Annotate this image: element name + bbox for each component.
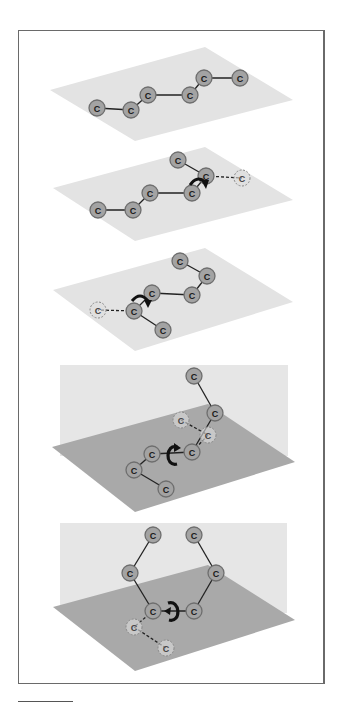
carbon-atom: C: [186, 603, 202, 619]
svg-text:C: C: [128, 106, 135, 116]
carbon-atom: C: [123, 102, 139, 118]
svg-text:C: C: [94, 104, 101, 114]
panel-5: CCCCCCCC: [53, 523, 295, 671]
svg-text:C: C: [204, 272, 211, 282]
ghost-carbon-atom: C: [126, 619, 142, 635]
svg-text:C: C: [189, 291, 196, 301]
carbon-atom: C: [125, 202, 141, 218]
carbon-atom: C: [140, 87, 156, 103]
carbon-atom: C: [158, 481, 174, 497]
panel-2: CCCCCCC: [53, 147, 293, 241]
svg-text:C: C: [150, 531, 157, 541]
svg-text:C: C: [237, 74, 244, 84]
svg-text:C: C: [131, 466, 138, 476]
panel-4: CCCCCCCC: [52, 365, 295, 512]
carbon-atom: C: [172, 253, 188, 269]
carbon-atom: C: [184, 185, 200, 201]
svg-text:C: C: [212, 409, 219, 419]
carbon-atom: C: [186, 368, 202, 384]
carbon-atom: C: [184, 444, 200, 460]
carbon-atom: C: [90, 202, 106, 218]
svg-text:C: C: [239, 174, 246, 184]
svg-text:C: C: [205, 431, 212, 441]
svg-text:C: C: [189, 189, 196, 199]
svg-text:C: C: [150, 607, 157, 617]
carbon-atom: C: [208, 565, 224, 581]
molecular-plane: [50, 47, 293, 141]
svg-text:C: C: [131, 623, 138, 633]
ghost-carbon-atom: C: [200, 427, 216, 443]
carbon-atom: C: [184, 287, 200, 303]
carbon-atom: C: [182, 87, 198, 103]
svg-text:C: C: [149, 450, 156, 460]
svg-text:C: C: [163, 485, 170, 495]
panel-3: CCCCCCC: [53, 248, 293, 351]
carbon-atom: C: [232, 70, 248, 86]
carbon-atom: C: [207, 405, 223, 421]
svg-text:C: C: [149, 289, 156, 299]
ghost-carbon-atom: C: [173, 412, 189, 428]
svg-text:C: C: [191, 531, 198, 541]
svg-text:C: C: [175, 156, 182, 166]
svg-text:C: C: [145, 91, 152, 101]
carbon-atom: C: [155, 322, 171, 338]
svg-text:C: C: [177, 257, 184, 267]
svg-text:C: C: [213, 569, 220, 579]
carbon-atom: C: [126, 303, 142, 319]
carbon-atom: C: [122, 565, 138, 581]
svg-text:C: C: [147, 189, 154, 199]
carbon-atom: C: [145, 527, 161, 543]
svg-text:C: C: [201, 74, 208, 84]
svg-text:C: C: [189, 448, 196, 458]
svg-text:C: C: [160, 326, 167, 336]
carbon-atom: C: [186, 527, 202, 543]
carbon-atom: C: [126, 462, 142, 478]
svg-text:C: C: [163, 644, 170, 654]
carbon-atom: C: [89, 100, 105, 116]
svg-text:C: C: [187, 91, 194, 101]
carbon-atom: C: [170, 152, 186, 168]
carbon-atom: C: [142, 185, 158, 201]
svg-text:C: C: [95, 206, 102, 216]
carbon-atom: C: [199, 268, 215, 284]
svg-text:C: C: [130, 206, 137, 216]
conformation-diagram: CCCCCCCCCCCCCCCCCCCCCCCCCCCCCCCCCCCC: [0, 0, 342, 704]
svg-text:C: C: [191, 607, 198, 617]
ghost-carbon-atom: C: [158, 640, 174, 656]
svg-text:C: C: [178, 416, 185, 426]
carbon-atom: C: [196, 70, 212, 86]
svg-text:C: C: [127, 569, 134, 579]
carbon-atom: C: [144, 446, 160, 462]
svg-text:C: C: [131, 307, 138, 317]
carbon-atom: C: [145, 603, 161, 619]
panel-1: CCCCCC: [50, 47, 293, 141]
svg-text:C: C: [95, 306, 102, 316]
svg-text:C: C: [191, 372, 198, 382]
ghost-carbon-atom: C: [90, 302, 106, 318]
ghost-carbon-atom: C: [234, 170, 250, 186]
